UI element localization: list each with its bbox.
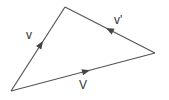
label-V: V [79, 78, 87, 92]
arrowhead-V-icon [81, 67, 90, 75]
vector-triangle-diagram: v v' V [0, 0, 169, 100]
label-v-prime: v' [114, 13, 122, 27]
arrowhead-v-icon [36, 39, 46, 49]
label-v: v [26, 28, 32, 42]
